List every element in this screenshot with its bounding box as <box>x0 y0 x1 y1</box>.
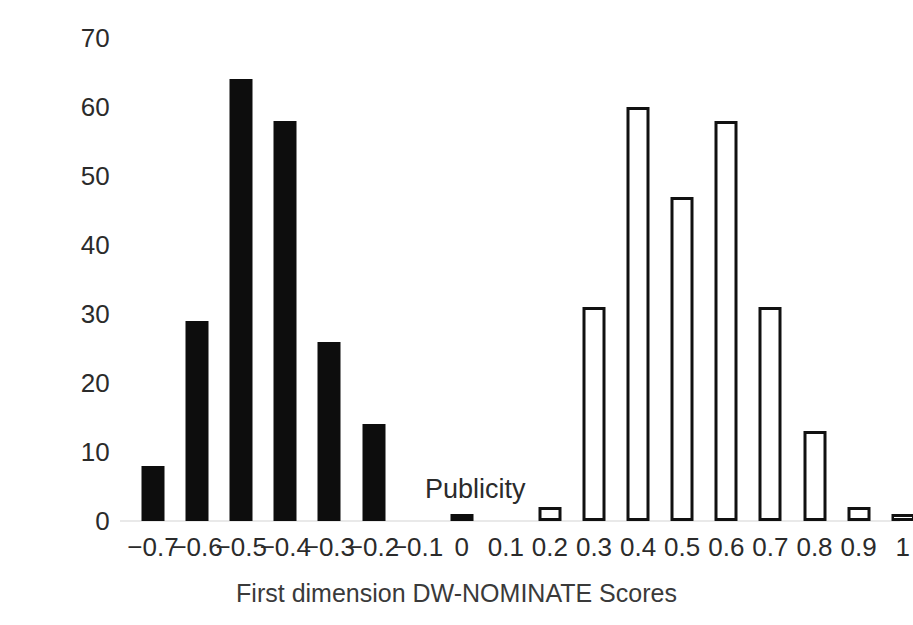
y-tick-label: 60 <box>54 94 110 120</box>
bar-1 <box>891 514 913 521</box>
y-axis-tick-labels: 010203040506070 <box>20 0 110 625</box>
x-tick-label: 0.8 <box>796 533 832 561</box>
bar-neg0.2 <box>362 424 385 521</box>
bar-0.9 <box>847 507 870 521</box>
bar-0.3 <box>583 307 606 521</box>
x-tick-label: 0.5 <box>664 533 700 561</box>
x-tick-label: 0.3 <box>576 533 612 561</box>
bar-0.8 <box>803 431 826 521</box>
y-tick-label: 10 <box>54 439 110 465</box>
y-tick-label: 70 <box>54 25 110 51</box>
bar-neg0.3 <box>318 342 341 521</box>
x-tick-label: 0.2 <box>532 533 568 561</box>
bar-neg0.6 <box>186 321 209 521</box>
bar-0.2 <box>538 507 561 521</box>
y-tick-label: 20 <box>54 370 110 396</box>
bar-0.7 <box>759 307 782 521</box>
x-tick-label: 0.1 <box>488 533 524 561</box>
x-tick-label: 0 <box>454 533 468 561</box>
y-tick-label: 50 <box>54 163 110 189</box>
bar-neg0.7 <box>142 466 165 521</box>
bar-neg0.5 <box>230 79 253 521</box>
x-tick-label: 0.9 <box>841 533 877 561</box>
x-axis-title: First dimension DW-NOMINATE Scores <box>0 578 913 608</box>
plot-area: 010203040506070 −0.7−0.6−0.5−0.4−0.3−0.2… <box>0 0 913 625</box>
x-tick-label: −0.1 <box>392 533 443 561</box>
annotation-publicity: Publicity <box>425 474 526 504</box>
bar-0.4 <box>627 107 650 521</box>
y-tick-label: 0 <box>54 508 110 534</box>
bar-0 <box>450 514 473 521</box>
bar-0.5 <box>671 197 694 521</box>
x-tick-label: 0.6 <box>708 533 744 561</box>
y-tick-label: 30 <box>54 301 110 327</box>
x-tick-label: 1 <box>895 533 909 561</box>
bar-neg0.4 <box>274 121 297 521</box>
x-tick-label: 0.7 <box>752 533 788 561</box>
chart-figure: 010203040506070 −0.7−0.6−0.5−0.4−0.3−0.2… <box>0 0 913 625</box>
x-tick-label: 0.4 <box>620 533 656 561</box>
bar-0.6 <box>715 121 738 521</box>
y-tick-label: 40 <box>54 232 110 258</box>
